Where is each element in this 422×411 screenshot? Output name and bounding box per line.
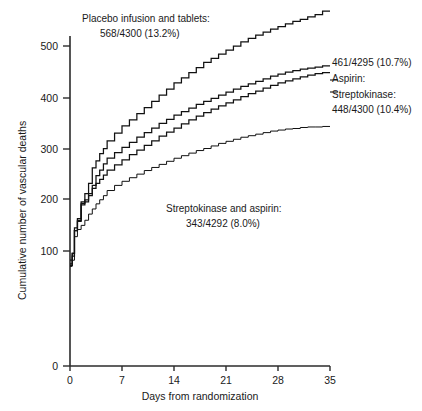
annotation-aspirin-name: Aspirin: bbox=[332, 73, 365, 84]
annotation-right: 461/4295 (10.7%) Aspirin: Streptokinase:… bbox=[332, 57, 412, 115]
chart-figure: Cumulative number of vascular deaths 500… bbox=[0, 0, 422, 411]
cumulative-vascular-deaths-chart: Cumulative number of vascular deaths 500… bbox=[0, 0, 422, 411]
y-ticklabel-500: 500 bbox=[40, 40, 58, 52]
x-ticklabel-21: 21 bbox=[220, 374, 232, 386]
y-axis-title: Cumulative number of vascular deaths bbox=[16, 121, 28, 300]
annotation-combined-line2: 343/4292 (8.0%) bbox=[186, 218, 260, 229]
annotation-streptokinase-value: 448/4300 (10.4%) bbox=[332, 104, 412, 115]
x-ticklabel-0: 0 bbox=[67, 374, 73, 386]
x-ticklabel-35: 35 bbox=[324, 374, 336, 386]
annotation-streptokinase-name: Streptokinase: bbox=[332, 89, 396, 100]
annotation-combined-line1: Streptokinase and aspirin: bbox=[166, 203, 282, 214]
x-axis-title: Days from randomization bbox=[142, 390, 259, 402]
y-ticklabel-0: 0 bbox=[52, 360, 58, 372]
annotation-aspirin-value: 461/4295 (10.7%) bbox=[332, 57, 412, 68]
x-ticklabel-7: 7 bbox=[119, 374, 125, 386]
annotation-placebo-line2: 568/4300 (13.2%) bbox=[100, 28, 180, 39]
series-line-streptokinase-and-aspirin bbox=[70, 126, 330, 266]
annotation-placebo: Placebo infusion and tablets: 568/4300 (… bbox=[82, 13, 210, 39]
x-ticklabel-14: 14 bbox=[168, 374, 180, 386]
x-tick-group: 0 7 14 21 28 35 bbox=[67, 366, 336, 386]
y-ticklabel-200: 200 bbox=[40, 193, 58, 205]
series-line-aspirin bbox=[70, 66, 330, 264]
annotation-placebo-line1: Placebo infusion and tablets: bbox=[82, 13, 210, 24]
y-ticklabel-400: 400 bbox=[40, 92, 58, 104]
x-ticklabel-28: 28 bbox=[272, 374, 284, 386]
series-line-streptokinase bbox=[70, 73, 330, 261]
y-ticklabel-100: 100 bbox=[40, 245, 58, 257]
y-ticklabel-300: 300 bbox=[40, 143, 58, 155]
annotation-combined: Streptokinase and aspirin: 343/4292 (8.0… bbox=[166, 203, 282, 229]
y-tick-group: 500 400 300 200 100 0 bbox=[40, 40, 70, 372]
